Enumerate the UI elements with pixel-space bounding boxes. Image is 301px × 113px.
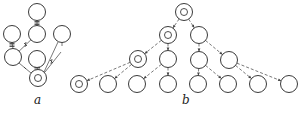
- arrowhead-icon: [115, 76, 118, 79]
- node: [29, 4, 46, 21]
- terminal-node: [176, 4, 193, 21]
- node: [5, 49, 22, 66]
- edge: [206, 65, 222, 78]
- arrowhead-icon: [173, 25, 176, 28]
- node: [129, 76, 146, 93]
- edge: [144, 64, 162, 78]
- panel-b-nodes: [71, 4, 298, 93]
- panel-b: b: [71, 4, 298, 108]
- panel-a-label: a: [34, 93, 41, 107]
- edge: [206, 40, 223, 54]
- node: [29, 51, 46, 68]
- node: [54, 26, 71, 43]
- node: [191, 27, 208, 44]
- panel-b-label: b: [182, 93, 190, 107]
- arrowhead-icon: [144, 76, 147, 79]
- node: [281, 76, 298, 93]
- arrowhead-icon: [87, 78, 90, 81]
- node: [190, 76, 207, 93]
- arrowhead-icon: [278, 78, 281, 81]
- node: [250, 76, 267, 93]
- node: [160, 51, 177, 68]
- node: [4, 26, 21, 43]
- node: [160, 76, 177, 93]
- node: [29, 26, 46, 43]
- diagram-figure: a b: [0, 0, 301, 113]
- terminal-node: [71, 76, 88, 93]
- node: [221, 52, 238, 69]
- panel-a: a: [4, 4, 71, 108]
- node: [191, 52, 208, 69]
- edge: [115, 64, 132, 78]
- panel-b-edges: [87, 19, 281, 81]
- edge: [145, 40, 162, 53]
- edge: [236, 65, 252, 78]
- node: [100, 76, 117, 93]
- node: [220, 76, 237, 93]
- arrowhead-icon: [219, 52, 222, 55]
- terminal-node: [130, 51, 147, 68]
- terminal-node: [160, 27, 177, 44]
- terminal-node: [30, 70, 47, 87]
